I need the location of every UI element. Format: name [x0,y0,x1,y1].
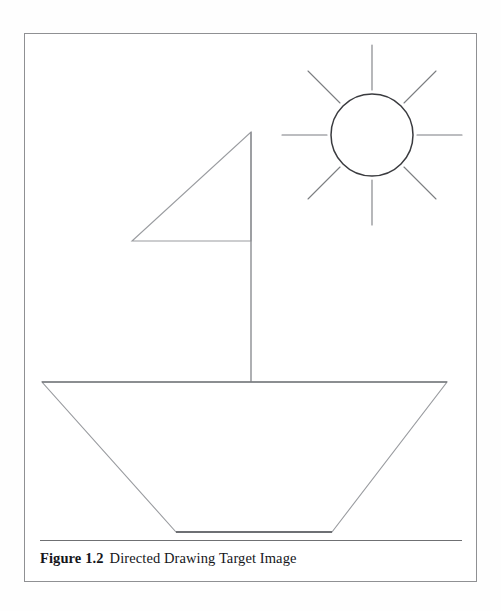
figure-caption-title: Directed Drawing Target Image [110,550,297,566]
sun-ray-sw-icon [308,167,340,199]
sun-ray-nw-icon [308,71,340,103]
sun-ray-ne-icon [404,71,436,103]
sun-circle [331,94,413,176]
sun-rays-group [282,45,462,225]
page-canvas: Figure 1.2Directed Drawing Target Image [0,0,501,611]
figure-caption-block: Figure 1.2Directed Drawing Target Image [40,540,464,567]
directed-drawing-illustration [24,33,477,582]
sun-group [282,45,462,225]
hull-trapezoid [42,382,447,532]
sun-ray-se-icon [404,167,436,199]
sail-triangle [132,132,251,241]
figure-caption: Figure 1.2Directed Drawing Target Image [40,550,464,567]
caption-divider-rule [40,540,462,541]
sailboat-group [42,132,447,532]
figure-caption-label: Figure 1.2 [40,550,104,566]
